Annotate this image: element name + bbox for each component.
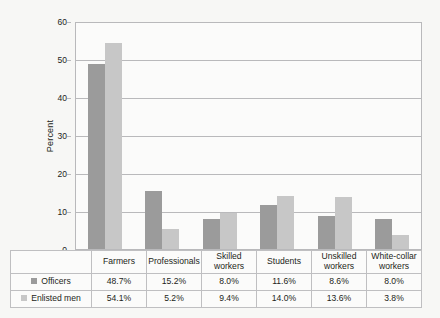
bar-enlisted-men-unskilled-workers [335,197,352,249]
table-cell-enlisted-men-unskilled-workers: 13.6% [312,291,367,308]
table-cell-officers-professionals: 15.2% [147,274,202,291]
bar-groups [76,23,421,249]
column-header-skilled-workers: Skilledworkers [202,251,257,274]
bar-officers-students [260,205,277,249]
table-cell-officers-farmers: 48.7% [92,274,147,291]
data-table-container: FarmersProfessionalsSkilledworkersStuden… [10,250,422,308]
y-axis-title-container: Percent [36,22,56,250]
y-tick-10: 10 [58,207,67,217]
bar-group [306,23,364,249]
bar-enlisted-men-farmers [105,43,122,249]
column-header-students: Students [257,251,312,274]
column-header-line: workers [313,262,365,272]
legend-item-enlisted-men: Enlisted men [11,291,92,308]
table-cell-enlisted-men-professionals: 5.2% [147,291,202,308]
table-cell-officers-students: 11.6% [257,274,312,291]
bar-group [76,23,134,249]
column-header-white-collar-workers: White-collarworkers [367,251,422,274]
bar-enlisted-men-white-collar-workers [392,235,409,249]
chart-figure: 0102030405060 Percent FarmersProfessiona… [0,0,440,318]
bar-enlisted-men-students [277,196,294,249]
table-row: Officers48.7%15.2%8.0%11.6%8.6%8.0% [11,274,422,291]
table-header-row: FarmersProfessionalsSkilledworkersStuden… [11,251,422,274]
table-cell-officers-unskilled-workers: 8.6% [312,274,367,291]
y-tick-30: 30 [58,131,67,141]
column-header-line: Farmers [93,257,145,267]
column-header-professionals: Professionals [147,251,202,274]
bar-officers-skilled-workers [203,219,220,249]
bar-officers-professionals [145,191,162,249]
data-table: FarmersProfessionalsSkilledworkersStuden… [10,250,422,308]
y-tick-mark-20 [67,174,71,175]
bar-officers-unskilled-workers [318,216,335,249]
bar-group [134,23,192,249]
legend-swatch-icon [31,278,37,284]
bar-officers-farmers [88,64,105,249]
y-tick-mark-30 [67,136,71,137]
legend-swatch-icon [21,295,27,301]
table-cell-officers-white-collar-workers: 8.0% [367,274,422,291]
bar-group [249,23,307,249]
column-header-line: workers [203,262,255,272]
table-cell-enlisted-men-skilled-workers: 9.4% [202,291,257,308]
table-cell-officers-skilled-workers: 8.0% [202,274,257,291]
y-tick-20: 20 [58,169,67,179]
legend-label: Officers [41,276,70,286]
y-tick-60: 60 [58,17,67,27]
table-row: Enlisted men54.1%5.2%9.4%14.0%13.6%3.8% [11,291,422,308]
table-corner-cell [11,251,92,274]
bar-group [191,23,249,249]
y-tick-50: 50 [58,55,67,65]
y-tick-mark-40 [67,98,71,99]
column-header-line: workers [368,262,420,272]
table-cell-enlisted-men-farmers: 54.1% [92,291,147,308]
legend-label: Enlisted men [31,293,81,303]
y-tick-mark-10 [67,212,71,213]
bar-enlisted-men-skilled-workers [220,213,237,249]
y-axis-title: Percent [45,120,55,152]
y-tick-mark-50 [67,60,71,61]
bar-enlisted-men-professionals [162,229,179,249]
bar-group [364,23,422,249]
column-header-line: Students [258,257,310,267]
column-header-line: Professionals [148,257,200,267]
y-tick-mark-60 [67,22,71,23]
bar-officers-white-collar-workers [375,219,392,249]
table-cell-enlisted-men-white-collar-workers: 3.8% [367,291,422,308]
y-tick-40: 40 [58,93,67,103]
table-cell-enlisted-men-students: 14.0% [257,291,312,308]
column-header-farmers: Farmers [92,251,147,274]
column-header-unskilled-workers: Unskilledworkers [312,251,367,274]
legend-item-officers: Officers [11,274,92,291]
plot-area [75,22,422,250]
